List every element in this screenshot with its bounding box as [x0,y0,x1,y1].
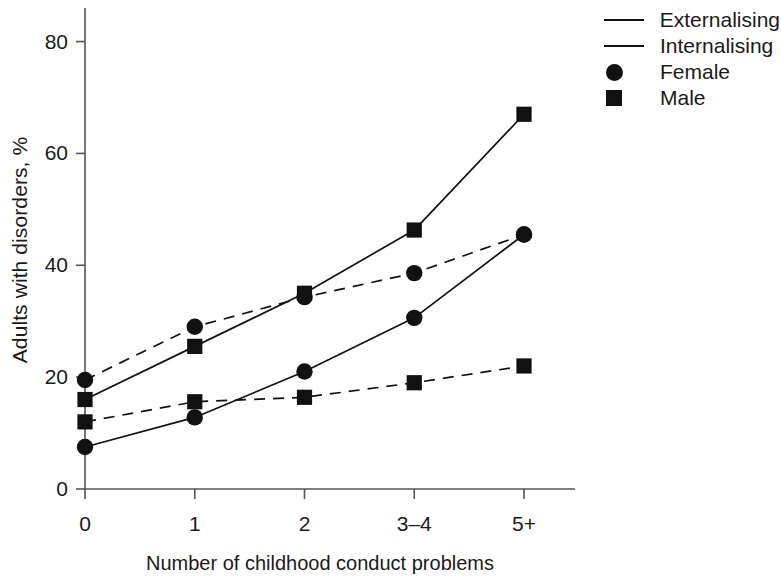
y-axis-tick-label: 20 [22,366,68,387]
legend-line-icon [604,45,644,47]
data-point-circle [77,372,93,388]
x-axis-tick-label: 3–4 [379,513,449,534]
legend-key [600,90,654,106]
y-axis-tick-label: 0 [22,478,68,499]
legend-item: Female [600,60,780,84]
chart-legend: ExternalisingInternalisingFemaleMale [600,8,780,112]
legend-key [600,45,654,47]
data-point-square [187,339,202,354]
y-axis-tick-label: 40 [22,254,68,275]
data-point-circle [296,363,312,379]
data-point-square [77,414,92,429]
y-axis-tick-label: 80 [22,31,68,52]
y-axis-tick-label: 60 [22,142,68,163]
x-axis-tick-label: 1 [160,513,230,534]
legend-circle-icon [606,64,623,81]
x-axis-tick-label: 2 [270,513,340,534]
data-point-circle [516,226,532,242]
legend-label: Externalising [654,8,780,32]
legend-square-icon [606,90,622,106]
data-point-square [407,375,422,390]
data-point-circle [187,409,203,425]
data-point-circle [296,289,312,305]
series-line-female-internalising [85,235,524,380]
data-point-square [77,392,92,407]
legend-key [600,64,654,81]
data-point-square [407,222,422,237]
data-point-square [297,390,312,405]
chart-figure: Adults with disorders, % 020406080 0123–… [0,0,781,580]
legend-item: Male [600,86,780,110]
data-point-circle [406,310,422,326]
x-axis-title-text: Number of childhood conduct problems [146,552,494,574]
data-point-circle [187,319,203,335]
series-line-female-externalising [85,235,524,448]
legend-item: Externalising [600,8,780,32]
data-point-square [516,358,531,373]
x-axis-title: Number of childhood conduct problems [60,552,580,575]
series-line-male-externalising [85,114,524,399]
legend-label: Male [654,86,706,110]
data-point-circle [406,265,422,281]
legend-label: Internalising [654,34,773,58]
data-point-square [187,394,202,409]
legend-key [600,19,654,21]
legend-line-icon [604,19,644,21]
data-point-circle [77,439,93,455]
data-point-square [516,107,531,122]
legend-label: Female [654,60,730,84]
legend-item: Internalising [600,34,780,58]
x-axis-tick-label: 0 [50,513,120,534]
x-axis-tick-label: 5+ [489,513,559,534]
